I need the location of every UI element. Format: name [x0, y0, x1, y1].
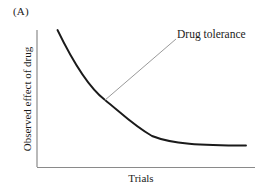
- x-axis-title: Trials: [100, 172, 182, 185]
- annotation-leader-line: [105, 39, 177, 101]
- y-axis-title: Observed effect of drug: [20, 29, 34, 169]
- figure-panel-a: (A) Observed effect of drug Trials Drug …: [0, 0, 269, 194]
- annotation-label-drug-tolerance: Drug tolerance: [177, 27, 246, 41]
- decay-curve: [58, 30, 247, 146]
